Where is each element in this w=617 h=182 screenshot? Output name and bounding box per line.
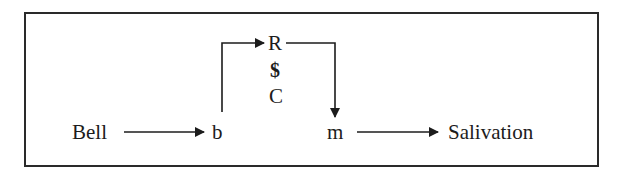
node-bell: Bell [72,122,107,143]
node-salivation: Salivation [448,122,533,143]
node-b: b [212,122,223,143]
arrow-r-to-m [286,43,335,117]
node-c: C [269,86,283,107]
diagram-connectors [0,0,617,182]
arrow-b-to-r [222,43,264,112]
node-dollar: $ [270,60,280,80]
node-r: R [268,33,282,54]
node-m: m [327,122,343,143]
